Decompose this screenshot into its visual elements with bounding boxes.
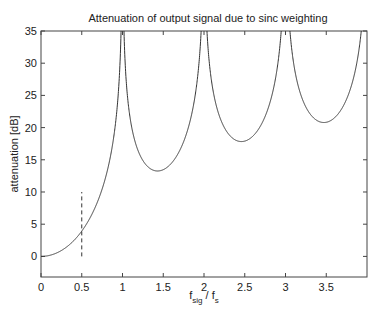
x-tick-label: 3 [282,281,288,293]
x-tick-label: 1 [119,281,125,293]
y-tick-label: 10 [25,186,37,198]
attenuation-curve [41,0,367,256]
y-tick-label: 35 [25,25,37,37]
plot-area: 00.511.522.533.5 05101520253035 [25,0,367,293]
y-axis-label: attenuation [dB] [8,115,20,192]
y-tick-label: 25 [25,89,37,101]
x-axis-label: fsig / fs [189,289,219,305]
y-tick-label: 20 [25,122,37,134]
y-tick-label: 0 [31,250,37,262]
chart-title: Attenuation of output signal due to sinc… [88,12,327,24]
x-axis-ticks: 00.511.522.533.5 [38,31,334,293]
x-tick-label: 0 [38,281,44,293]
y-tick-label: 30 [25,57,37,69]
axes-box [41,31,367,277]
x-tick-label: 0.5 [74,281,89,293]
y-tick-label: 15 [25,154,37,166]
x-tick-label: 3.5 [319,281,334,293]
x-tick-label: 1.5 [156,281,171,293]
chart-figure: Attenuation of output signal due to sinc… [0,0,386,318]
y-axis-ticks: 05101520253035 [25,25,367,262]
x-tick-label: 2.5 [237,281,252,293]
y-tick-label: 5 [31,218,37,230]
